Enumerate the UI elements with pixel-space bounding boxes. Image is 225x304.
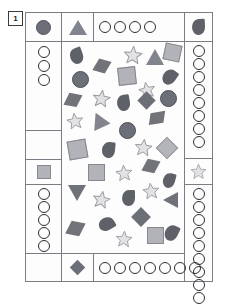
- tally-circle[interactable]: [193, 45, 205, 57]
- square-filled-icon: [37, 165, 51, 179]
- tally-circle[interactable]: [189, 262, 201, 274]
- tally-circle[interactable]: [193, 58, 205, 70]
- tally-circle[interactable]: [193, 123, 205, 135]
- tally-circle[interactable]: [99, 21, 111, 33]
- tally-circle[interactable]: [114, 262, 126, 274]
- triangle-up-icon: [69, 20, 87, 35]
- scatter-shape-star[interactable]: [114, 229, 133, 248]
- tally-circle[interactable]: [159, 262, 171, 274]
- shape-scatter-field[interactable]: [61, 41, 185, 254]
- scatter-shape-droplet[interactable]: [122, 190, 135, 206]
- scatter-shape-rhombus[interactable]: [65, 221, 85, 236]
- circle-filled-icon: [36, 20, 51, 35]
- tally-circle[interactable]: [193, 214, 205, 226]
- cell-right-tally-upper[interactable]: [184, 41, 213, 159]
- scatter-shape-rhombus[interactable]: [142, 159, 161, 174]
- scatter-shape-diamond[interactable]: [131, 207, 151, 227]
- scatter-shape-triangle[interactable]: [146, 49, 164, 65]
- scatter-shape-circle[interactable]: [160, 90, 177, 107]
- cell-triangle-key[interactable]: [61, 12, 94, 42]
- tally-circle[interactable]: [129, 262, 141, 274]
- page-number-badge: 1: [8, 11, 23, 26]
- cell-bottom-circle-tally[interactable]: [93, 253, 185, 282]
- diamond-icon: [70, 260, 86, 276]
- cell-top-circle-tally[interactable]: [93, 12, 185, 42]
- tally-circle[interactable]: [99, 262, 111, 274]
- tally-circle[interactable]: [193, 279, 205, 291]
- tally-circle[interactable]: [193, 240, 205, 252]
- scatter-shape-square[interactable]: [147, 227, 164, 244]
- scatter-shape-star[interactable]: [114, 163, 134, 183]
- scatter-shape-droplet[interactable]: [116, 94, 132, 112]
- tally-circle[interactable]: [38, 214, 50, 226]
- scatter-shape-triangle-right[interactable]: [163, 192, 178, 208]
- scatter-shape-rhombus[interactable]: [92, 58, 111, 73]
- scatter-shape-circle[interactable]: [72, 71, 89, 88]
- cell-left-tally-lower[interactable]: [25, 184, 62, 254]
- scatter-shape-triangle[interactable]: [87, 109, 110, 131]
- cell-filled-circle-key[interactable]: [25, 12, 62, 42]
- scatter-shape-droplet[interactable]: [161, 172, 177, 190]
- scatter-shape-square[interactable]: [162, 42, 182, 62]
- scatter-shape-circle[interactable]: [119, 122, 136, 139]
- tally-circle[interactable]: [38, 188, 50, 200]
- scatter-shape-droplet[interactable]: [101, 141, 115, 158]
- star-icon: [190, 163, 207, 180]
- scatter-shape-droplet[interactable]: [96, 214, 116, 233]
- triangle-key-wrap: [62, 13, 93, 41]
- tally-circle[interactable]: [38, 74, 50, 86]
- tally-circle[interactable]: [129, 21, 141, 33]
- cell-left-bottom-blank[interactable]: [25, 253, 62, 282]
- droplet-key-wrap: [185, 13, 212, 41]
- tally-circle[interactable]: [193, 188, 205, 200]
- cell-left-blank[interactable]: [25, 130, 62, 160]
- left-circle-tally-lower-strip: [26, 185, 61, 253]
- scatter-shape-star[interactable]: [90, 188, 112, 210]
- tally-circle[interactable]: [144, 262, 156, 274]
- tally-circle[interactable]: [193, 71, 205, 83]
- cell-droplet-key[interactable]: [184, 12, 213, 42]
- worksheet-frame: [25, 12, 210, 281]
- scatter-shape-square[interactable]: [66, 138, 88, 160]
- scatter-shape-droplet[interactable]: [162, 223, 181, 243]
- scatter-shape-rhombus[interactable]: [64, 93, 83, 107]
- scatter-shape-star[interactable]: [141, 181, 161, 201]
- star-key-wrap: [185, 159, 212, 184]
- scatter-shape-square[interactable]: [88, 164, 105, 181]
- tally-circle[interactable]: [144, 21, 156, 33]
- diamond-key-wrap: [62, 254, 93, 281]
- top-circle-tally-strip: [94, 13, 184, 41]
- scatter-shape-droplet[interactable]: [160, 67, 180, 88]
- scatter-shape-star[interactable]: [133, 137, 154, 158]
- scatter-shape-triangle-down[interactable]: [68, 185, 86, 201]
- scatter-shape-rhombus[interactable]: [149, 111, 165, 125]
- tally-circle[interactable]: [193, 201, 205, 213]
- tally-circle[interactable]: [193, 136, 205, 148]
- scatter-shape-diamond[interactable]: [156, 137, 179, 160]
- scatter-shape-star[interactable]: [122, 44, 144, 66]
- square-key-wrap: [26, 160, 61, 184]
- cell-left-tally-upper[interactable]: [25, 41, 62, 131]
- filled-circle-key-wrap: [26, 13, 61, 41]
- tally-circle[interactable]: [174, 262, 186, 274]
- tally-circle[interactable]: [193, 227, 205, 239]
- tally-circle[interactable]: [193, 110, 205, 122]
- scatter-shape-star[interactable]: [91, 88, 112, 109]
- tally-circle[interactable]: [193, 97, 205, 109]
- tally-circle[interactable]: [38, 46, 50, 58]
- tally-circle[interactable]: [193, 84, 205, 96]
- scatter-shape-droplet[interactable]: [68, 46, 86, 66]
- tally-circle[interactable]: [38, 227, 50, 239]
- scatter-shape-square[interactable]: [117, 66, 137, 86]
- left-circle-tally-upper-strip: [26, 42, 61, 130]
- tally-circle[interactable]: [38, 201, 50, 213]
- cell-diamond-key[interactable]: [61, 253, 94, 282]
- scatter-shape-star[interactable]: [65, 111, 85, 131]
- droplet-icon: [192, 19, 206, 35]
- tally-circle[interactable]: [114, 21, 126, 33]
- cell-star-key[interactable]: [184, 158, 213, 185]
- tally-circle[interactable]: [193, 292, 205, 304]
- cell-square-key[interactable]: [25, 159, 62, 185]
- tally-circle[interactable]: [38, 60, 50, 72]
- tally-circle[interactable]: [38, 240, 50, 252]
